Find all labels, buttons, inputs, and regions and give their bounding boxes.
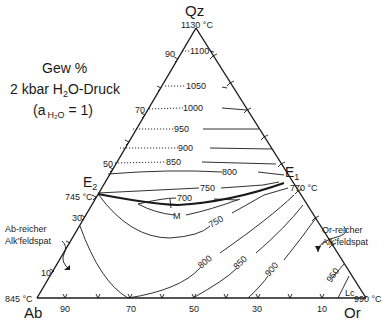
- vertex-ab-temp: 845 °C: [5, 294, 33, 304]
- leucite-field-label: Lc: [345, 288, 355, 298]
- left-tick-70: 70: [135, 105, 145, 115]
- vertex-or-temp: 990 °C: [354, 294, 382, 304]
- quartz-isotherms: [98, 51, 284, 204]
- svg-text:900: 900: [178, 143, 193, 153]
- bottom-tick-90: 90: [60, 304, 70, 314]
- minimum-label: M: [173, 211, 181, 221]
- svg-text:700: 700: [177, 193, 192, 203]
- svg-text:900: 900: [263, 260, 280, 278]
- bottom-tick-70: 70: [126, 304, 136, 314]
- eutectic-e1-label: E1: [285, 164, 299, 182]
- diagram-title: Gew % 2 kbar H2O-Druck (aH₂O= 1): [10, 60, 121, 120]
- vertex-qz-label: Qz: [185, 2, 204, 19]
- left-tick-50: 50: [103, 159, 113, 169]
- ternary-phase-diagram: Gew % 2 kbar H2O-Druck (aH₂O= 1) Qz 1130…: [0, 0, 389, 324]
- svg-text:800: 800: [222, 167, 237, 177]
- ab-feldspar-label-1: Ab-reicher: [5, 224, 47, 234]
- svg-text:850: 850: [231, 254, 249, 272]
- eutectic-e1-temp: 770 °C: [290, 183, 318, 193]
- svg-text:850: 850: [166, 157, 181, 167]
- vertex-ab-label: Ab: [24, 304, 42, 321]
- svg-text:1050: 1050: [186, 81, 206, 91]
- left-tick-10: 10: [41, 268, 51, 278]
- vertex-or-label: Or: [344, 304, 361, 321]
- bottom-tick-10: 10: [317, 304, 327, 314]
- arrowheads: [64, 246, 321, 270]
- isotherm-labels: 1100 1050 1000 950 900 850 800 750 700 7…: [166, 46, 341, 284]
- svg-text:750: 750: [207, 214, 225, 230]
- bottom-tick-30: 30: [252, 304, 262, 314]
- title-line1: Gew %: [42, 60, 87, 76]
- or-feldspar-label-1: Or-reicher: [322, 225, 363, 235]
- svg-text:1000: 1000: [183, 103, 203, 113]
- svg-text:950: 950: [324, 266, 341, 284]
- svg-text:800: 800: [196, 253, 214, 270]
- bottom-tick-50: 50: [189, 304, 199, 314]
- svg-text:1100: 1100: [190, 46, 209, 56]
- title-line2: 2 kbar H2O-Druck: [10, 81, 121, 99]
- ab-feldspar-label-2: Alk’feldspat: [5, 236, 52, 246]
- svg-text:750: 750: [200, 183, 215, 193]
- left-tick-90: 90: [165, 49, 175, 59]
- eutectic-e2-label: E2: [83, 174, 97, 192]
- title-line3: (aH₂O= 1): [33, 102, 93, 120]
- left-tick-30: 30: [72, 213, 82, 223]
- eutectic-e2-temp: 745 °C: [65, 192, 93, 202]
- vertex-qz-temp: 1130 °C: [181, 20, 213, 30]
- or-feldspar-label-2: Alk’feldspat: [322, 237, 369, 247]
- svg-text:950: 950: [174, 124, 189, 134]
- feldspar-isotherms: [80, 188, 349, 298]
